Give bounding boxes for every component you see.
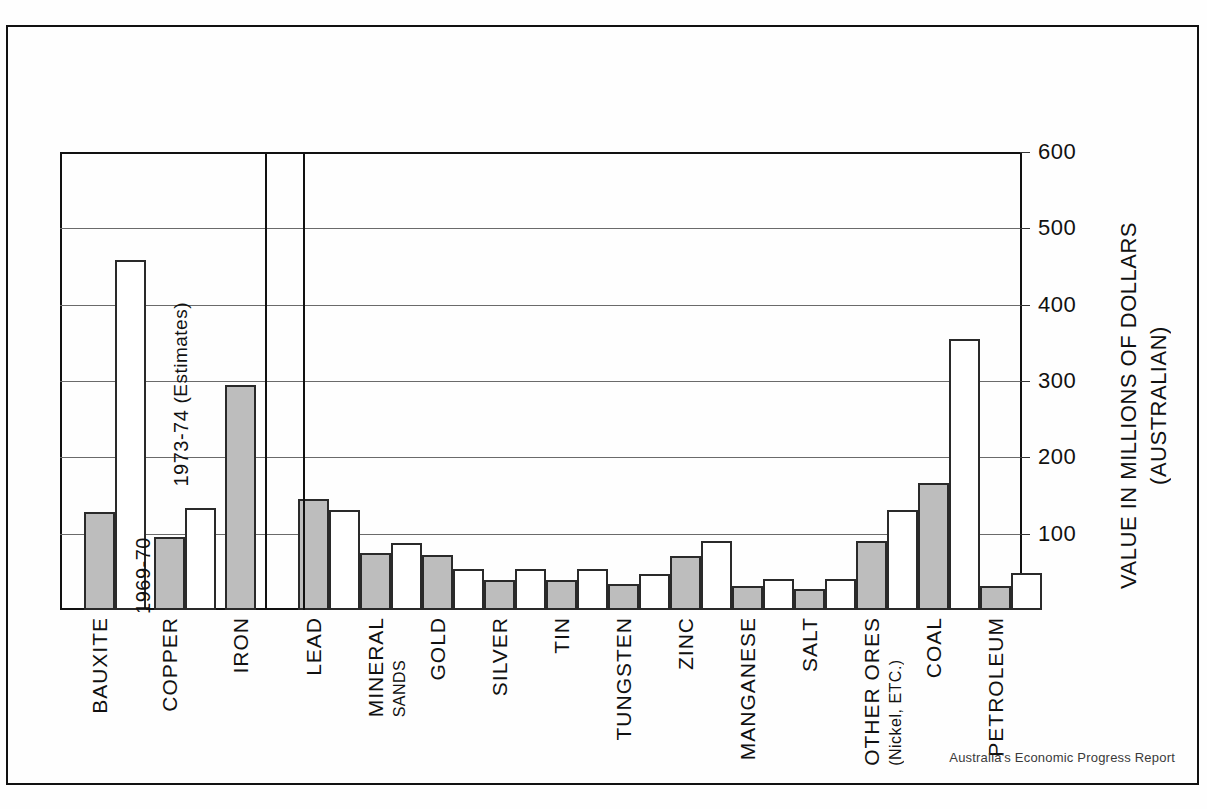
x-label-main: LEAD: [302, 617, 326, 676]
bar-1973-74-gold[interactable]: [453, 569, 484, 610]
x-label-main: MINERAL: [364, 617, 388, 717]
bar-1969-70-gold[interactable]: [422, 555, 453, 610]
x-label-manganese: MANGANESE: [736, 617, 760, 760]
x-label-lead: LEAD: [302, 617, 326, 676]
gridline-500: [60, 228, 1022, 229]
bar-1973-74-zinc[interactable]: [701, 541, 732, 610]
bar-1973-74-copper[interactable]: [185, 508, 216, 610]
y-axis-title-line1: VALUE IN MILLIONS OF DOLLARS: [1116, 222, 1141, 589]
y-tick-label-600: 600: [1038, 141, 1076, 163]
gridline-200: [60, 457, 1022, 458]
x-label-main: COPPER: [158, 617, 182, 712]
legend-label-1969-70: 1969-70: [132, 537, 155, 614]
y-tick-600: [1020, 152, 1030, 153]
bar-1973-74-tin[interactable]: [577, 569, 608, 610]
bar-1969-70-bauxite[interactable]: [84, 512, 115, 610]
bar-1969-70-coal[interactable]: [918, 483, 949, 610]
x-label-mineral: MINERALSANDS: [364, 617, 412, 717]
bar-1969-70-copper[interactable]: [154, 537, 185, 610]
x-label-main: MANGANESE: [736, 617, 760, 760]
x-label-tungsten: TUNGSTEN: [612, 617, 636, 741]
gridline-300: [60, 381, 1022, 382]
bar-1969-70-petroleum[interactable]: [980, 586, 1011, 610]
bar-1969-70-zinc[interactable]: [670, 556, 701, 610]
y-tick-100: [1020, 534, 1030, 535]
legend-label-1973-74: 1973-74 (Estimates): [170, 302, 193, 487]
bar-1973-74-tungsten[interactable]: [639, 574, 670, 610]
bar-group-copper: [154, 508, 216, 610]
bar-group-silver: [484, 569, 546, 610]
y-tick-label-300: 300: [1038, 370, 1076, 392]
x-axis-labels: BAUXITECOPPERIRONLEADMINERALSANDSGOLDSIL…: [60, 617, 1020, 787]
bar-1973-74-mineral[interactable]: [391, 543, 422, 610]
x-label-main: SILVER: [488, 617, 512, 696]
bar-group-tin: [546, 569, 608, 610]
bar-1969-70-salt[interactable]: [794, 589, 825, 610]
x-label-tin: TIN: [550, 617, 574, 654]
chart-page: 100200300400500600 1969-70 1973-74 (Esti…: [0, 0, 1207, 809]
x-label-zinc: ZINC: [674, 617, 698, 670]
bar-group-gold: [422, 555, 484, 610]
bar-group-manganese: [732, 579, 794, 610]
y-axis-title: VALUE IN MILLIONS OF DOLLARS (AUSTRALIAN…: [1114, 222, 1174, 589]
y-tick-200: [1020, 457, 1030, 458]
bar-1973-74-manganese[interactable]: [763, 579, 794, 610]
x-label-coal: COAL: [922, 617, 946, 678]
x-label-main: IRON: [229, 617, 253, 674]
x-label-iron: IRON: [229, 617, 253, 674]
bar-group-coal: [918, 339, 980, 610]
bar-1973-74-lead[interactable]: [329, 510, 360, 610]
x-label-main: PETROLEUM: [984, 617, 1008, 757]
x-label-silver: SILVER: [488, 617, 512, 696]
x-label-main: BAUXITE: [88, 617, 112, 714]
bar-group-zinc: [670, 541, 732, 610]
y-tick-label-400: 400: [1038, 294, 1076, 316]
bar-group-tungsten: [608, 574, 670, 610]
gridline-400: [60, 305, 1022, 306]
x-label-sub: (Nickel, ETC.): [884, 617, 908, 766]
bar-1969-70-iron[interactable]: [225, 385, 256, 610]
bar-1973-74-petroleum[interactable]: [1011, 573, 1042, 610]
bar-group-petroleum: [980, 573, 1042, 610]
bar-group-other: [856, 510, 918, 610]
x-label-main: TIN: [550, 617, 574, 654]
x-label-main: COAL: [922, 617, 946, 678]
x-label-main: SALT: [798, 617, 822, 672]
plot-area: 100200300400500600 1969-70 1973-74 (Esti…: [60, 152, 1020, 610]
x-label-salt: SALT: [798, 617, 822, 672]
y-tick-label-200: 200: [1038, 446, 1076, 468]
bar-group-iron: [225, 385, 256, 610]
x-label-bauxite: BAUXITE: [88, 617, 112, 714]
y-tick-label-500: 500: [1038, 217, 1076, 239]
y-axis-title-line2: (AUSTRALIAN): [1146, 326, 1171, 485]
x-label-main: OTHER ORES: [860, 617, 884, 766]
y-tick-400: [1020, 305, 1030, 306]
x-label-gold: GOLD: [426, 617, 450, 681]
x-label-copper: COPPER: [158, 617, 182, 712]
x-label-sub: SANDS: [388, 617, 412, 717]
bar-1973-74-coal[interactable]: [949, 339, 980, 610]
legend-1973-estimates: (Estimates): [170, 302, 191, 404]
x-label-otherores: OTHER ORES(Nickel, ETC.): [860, 617, 908, 766]
x-label-main: TUNGSTEN: [612, 617, 636, 741]
bar-1969-70-mineral[interactable]: [360, 553, 391, 610]
x-label-main: ZINC: [674, 617, 698, 670]
bar-1973-74-silver[interactable]: [515, 569, 546, 610]
bar-1969-70-tin[interactable]: [546, 580, 577, 610]
bar-1969-70-manganese[interactable]: [732, 586, 763, 610]
y-tick-300: [1020, 381, 1030, 382]
bar-1969-70-tungsten[interactable]: [608, 584, 639, 610]
x-label-main: GOLD: [426, 617, 450, 681]
legend-1973-year: 1973-74: [170, 410, 192, 487]
y-tick-500: [1020, 228, 1030, 229]
separator-left-of-iron: [265, 152, 267, 610]
footer-credit: Australia's Economic Progress Report: [949, 750, 1175, 765]
bar-1969-70-silver[interactable]: [484, 580, 515, 610]
separator-right-of-iron: [303, 152, 305, 610]
bar-group-lead: [298, 499, 360, 610]
bar-group-mineral: [360, 543, 422, 610]
bar-1973-74-other[interactable]: [887, 510, 918, 610]
x-label-petroleum: PETROLEUM: [984, 617, 1008, 757]
bar-1969-70-other[interactable]: [856, 541, 887, 610]
bar-1973-74-salt[interactable]: [825, 579, 856, 610]
